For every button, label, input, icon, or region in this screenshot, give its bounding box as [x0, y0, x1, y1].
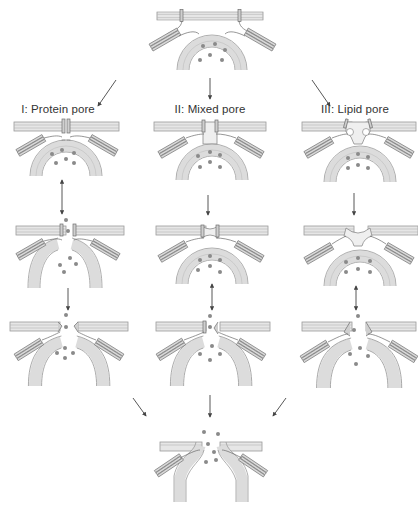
column-lipid-pore [300, 119, 418, 388]
stage-full-fusion [154, 430, 267, 502]
mixed-pore-stage-expansion [156, 314, 270, 386]
protein-pore-stage-expansion [10, 313, 128, 386]
mixed-pore-stage-initiation [154, 120, 266, 180]
column-mixed-pore [154, 120, 270, 386]
protein-pore-stage-initiation [14, 119, 119, 176]
column-protein-pore [10, 119, 128, 386]
lipid-pore-stage-expansion [300, 314, 418, 388]
lipid-pore-stage-opening [304, 226, 418, 286]
arrows-columns-to-final [133, 395, 286, 417]
protein-pore-stage-opening [16, 218, 124, 288]
fusion-stages [0, 0, 418, 510]
lipid-pore-stage-initiation [302, 119, 416, 182]
mixed-pore-stage-opening [156, 225, 268, 284]
